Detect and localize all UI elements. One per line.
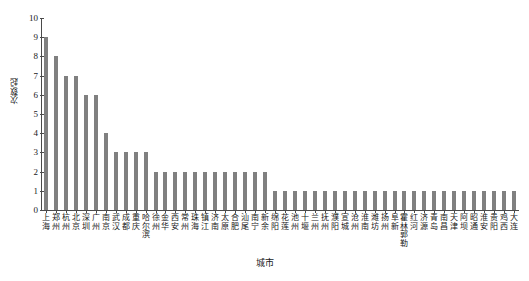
bar	[412, 191, 416, 210]
x-axis-tick-label: 汕尾	[241, 214, 250, 231]
bar	[383, 191, 387, 210]
bar	[323, 191, 327, 210]
bar	[462, 191, 466, 210]
x-axis-tick-label: 杭州	[61, 214, 70, 231]
x-axis-tick-label: 潍坊	[370, 214, 379, 231]
x-axis-tick-label: 镇江	[201, 214, 210, 231]
x-axis-tick-label: 太原	[221, 214, 230, 231]
bar	[253, 172, 257, 210]
y-axis-tick-label: 3	[34, 148, 39, 157]
y-axis-title: 次数/起	[10, 78, 24, 104]
x-axis-tick-label: 新余	[261, 214, 270, 231]
x-axis-tick-label: 郑州	[51, 214, 60, 231]
y-axis-tick-label: 10	[29, 14, 38, 23]
bar	[213, 172, 217, 210]
x-axis-tick-label: 成都	[121, 214, 130, 231]
plot-area: 012345678910	[41, 18, 519, 210]
bar	[124, 152, 128, 210]
bar	[173, 172, 177, 210]
y-axis-tick-label: 9	[34, 33, 39, 42]
y-axis-tick-label: 4	[34, 129, 39, 138]
x-axis-tick-label: 上海	[41, 214, 50, 231]
y-axis-tick-label: 8	[34, 52, 39, 61]
y-axis-tick-label: 0	[34, 206, 39, 215]
x-axis-tick-label: 沧州	[350, 214, 359, 231]
bar	[442, 191, 446, 210]
y-axis-tick-label: 1	[34, 186, 39, 195]
x-axis-tick-label: 抚州	[320, 214, 329, 231]
bar	[144, 152, 148, 210]
x-axis-tick-label: 南京	[101, 214, 110, 231]
x-axis-tick-label: 南昌	[440, 214, 449, 231]
x-axis-tick-label: 池州	[290, 214, 299, 231]
y-axis-tick-label: 7	[34, 71, 39, 80]
bar	[263, 172, 267, 210]
x-axis-tick-label: 红河	[410, 214, 419, 231]
x-axis-tick-label: 昭通	[470, 214, 479, 231]
bar	[44, 37, 48, 210]
bar	[273, 191, 277, 210]
bar	[94, 95, 98, 210]
bar	[84, 95, 88, 210]
y-axis-tick-label: 6	[34, 90, 39, 99]
bar	[233, 172, 237, 210]
x-axis-title: 城市	[0, 258, 529, 268]
x-axis-tick-label: 淮南	[360, 214, 369, 231]
bar	[223, 172, 227, 210]
bar	[114, 152, 118, 210]
x-axis-tick-label: 金华	[161, 214, 170, 231]
bar	[154, 172, 158, 210]
x-axis-tick-label: 兰州	[310, 214, 319, 231]
x-axis-tick-label: 贵阳	[490, 214, 499, 231]
x-axis-tick-label: 绵阳	[271, 214, 280, 231]
x-axis-tick-label: 西安	[171, 214, 180, 231]
bar	[512, 191, 516, 210]
x-axis-tick-label: 阜新	[390, 214, 399, 231]
x-axis-tick-label: 宣城	[340, 214, 349, 231]
bar	[54, 56, 58, 210]
bar	[243, 172, 247, 210]
x-axis-tick-label: 南宁	[251, 214, 260, 231]
x-axis-tick-label: 扬州	[380, 214, 389, 231]
bar	[104, 133, 108, 210]
bar	[303, 191, 307, 210]
x-axis-tick-label: 十堰	[300, 214, 309, 231]
x-axis-tick-label: 常州	[181, 214, 190, 231]
x-axis-tick-label: 天津	[450, 214, 459, 231]
x-axis-tick-label: 青岛	[430, 214, 439, 231]
y-axis-tick-label: 5	[34, 110, 39, 119]
x-axis-tick-label: 阿坝	[460, 214, 469, 231]
x-axis-tick-label: 广州	[91, 214, 100, 231]
x-axis-tick-label: 花莲	[280, 214, 289, 231]
x-axis-tick-label: 大连	[510, 214, 519, 231]
x-axis-tick-label: 武汉	[111, 214, 120, 231]
bar-chart: 次数/起 012345678910 上海郑州杭州北京深圳广州南京武汉成都重庆哈尔…	[0, 0, 529, 281]
x-axis-tick-label: 哈尔滨	[141, 214, 150, 240]
bar	[343, 191, 347, 210]
x-axis-tick-label: 重庆	[131, 214, 140, 231]
bar	[393, 191, 397, 210]
x-axis-tick-label: 北京	[71, 214, 80, 231]
bar	[452, 191, 456, 210]
x-axis-tick-label: 深圳	[81, 214, 90, 231]
bar	[333, 191, 337, 210]
bar	[74, 76, 78, 210]
bar	[183, 172, 187, 210]
bar-series	[41, 18, 519, 210]
bar	[134, 152, 138, 210]
x-axis-tick-label: 濮阳	[330, 214, 339, 231]
x-axis-tick-label: 徐州	[151, 214, 160, 231]
bar	[283, 191, 287, 210]
y-axis-tick-mark	[40, 210, 44, 211]
bar	[373, 191, 377, 210]
x-axis-tick-labels: 上海郑州杭州北京深圳广州南京武汉成都重庆哈尔滨徐州金华西安常州珠海镇江济南太原合…	[41, 214, 519, 260]
bar	[313, 191, 317, 210]
bar	[163, 172, 167, 210]
bar	[482, 191, 486, 210]
bar	[492, 191, 496, 210]
x-axis-tick-label: 济南	[211, 214, 220, 231]
bar	[203, 172, 207, 210]
bar	[422, 191, 426, 210]
x-axis-line	[41, 210, 519, 211]
x-axis-tick-label: 霍林郭勒	[400, 214, 409, 248]
